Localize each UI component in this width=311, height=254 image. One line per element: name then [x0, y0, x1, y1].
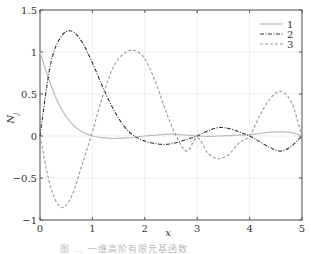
- x-tick-label: 2: [142, 223, 148, 234]
- y-tick-label: 1.5: [21, 5, 37, 16]
- y-axis-label: Nj: [5, 112, 20, 125]
- x-tick-label: 0: [37, 223, 43, 234]
- series-line-3: [40, 50, 302, 208]
- y-tick-label: 0: [31, 131, 37, 142]
- y-tick-label: 1: [31, 47, 37, 58]
- y-ticks: −1−0.500.511.5: [13, 5, 302, 226]
- grid: [40, 10, 302, 220]
- legend: 123: [260, 19, 293, 50]
- legend-label-3: 3: [287, 39, 293, 50]
- x-tick-label: 1: [89, 223, 95, 234]
- x-tick-label: 5: [299, 223, 305, 234]
- x-axis-label: x: [165, 227, 171, 238]
- figure-caption: 图 … 一维高阶有限元基函数: [60, 242, 250, 254]
- series-layer: [40, 31, 302, 208]
- y-tick-label: 0.5: [21, 89, 37, 100]
- x-tick-label: 4: [246, 223, 252, 234]
- y-tick-label: −1: [22, 215, 37, 226]
- x-ticks: 012345: [37, 10, 305, 234]
- x-tick-label: 3: [194, 223, 200, 234]
- y-tick-label: −0.5: [13, 173, 37, 184]
- plot-frame: [40, 10, 302, 220]
